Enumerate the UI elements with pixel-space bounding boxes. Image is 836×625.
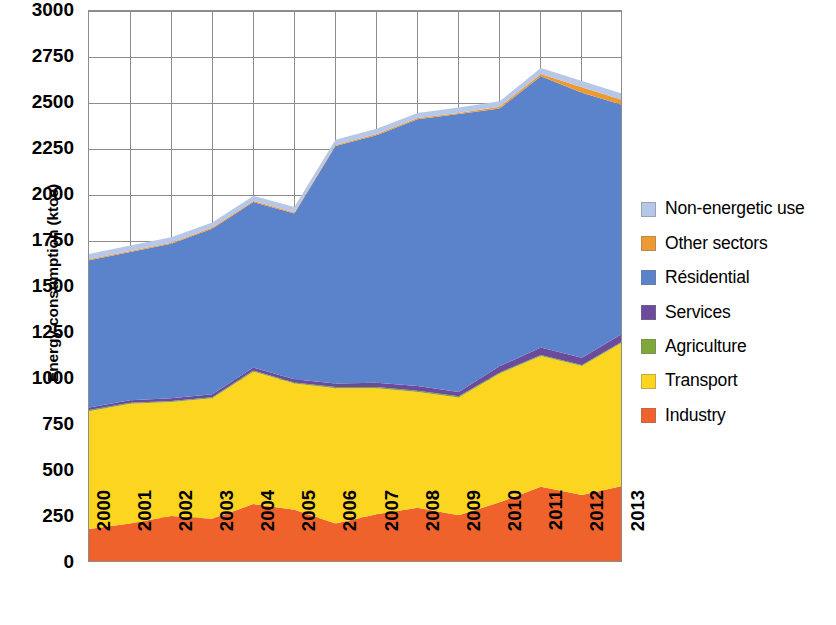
y-tick-label: 0 xyxy=(63,552,74,571)
plot-area xyxy=(88,10,622,562)
legend-label: Transport xyxy=(665,372,737,390)
y-tick-label: 1250 xyxy=(32,322,74,341)
y-tick-label: 1750 xyxy=(32,230,74,249)
y-tick-label: 750 xyxy=(42,414,74,433)
legend-swatch-icon xyxy=(641,202,656,217)
y-tick-label: 2250 xyxy=(32,138,74,157)
legend-label: Agriculture xyxy=(665,338,746,356)
y-tick-label: 250 xyxy=(42,506,74,525)
legend-label: Services xyxy=(665,304,731,322)
legend-item[interactable]: Non-energetic use xyxy=(641,192,836,226)
legend-item[interactable]: Transport xyxy=(641,364,836,398)
legend-item[interactable]: Résidential xyxy=(641,261,836,295)
legend-label: Résidential xyxy=(665,269,749,287)
x-tick-label: 2013 xyxy=(629,490,648,570)
y-tick-label: 1000 xyxy=(32,368,74,387)
y-tick-label: 500 xyxy=(42,460,74,479)
legend-label: Other sectors xyxy=(665,235,767,253)
chart-legend: Non-energetic useOther sectorsRésidentia… xyxy=(641,192,836,433)
legend-item[interactable]: Services xyxy=(641,295,836,329)
area-series-group xyxy=(89,68,622,562)
legend-label: Non-energetic use xyxy=(665,200,805,218)
y-tick-label: 2750 xyxy=(32,46,74,65)
legend-item[interactable]: Other sectors xyxy=(641,226,836,260)
stacked-area-plot xyxy=(89,11,622,562)
y-tick-label: 3000 xyxy=(32,0,74,19)
legend-label: Industry xyxy=(665,407,726,425)
legend-item[interactable]: Industry xyxy=(641,398,836,432)
y-axis-tick-labels: 0250500750100012501500175020002250250027… xyxy=(0,0,82,625)
y-tick-label: 1500 xyxy=(32,276,74,295)
legend-swatch-icon xyxy=(641,339,656,354)
legend-item[interactable]: Agriculture xyxy=(641,330,836,364)
legend-swatch-icon xyxy=(641,236,656,251)
chart-figure: Energy consumption (ktoe) 02505007501000… xyxy=(0,0,836,625)
legend-swatch-icon xyxy=(641,305,656,320)
legend-swatch-icon xyxy=(641,270,656,285)
legend-swatch-icon xyxy=(641,408,656,423)
y-tick-label: 2000 xyxy=(32,184,74,203)
legend-swatch-icon xyxy=(641,374,656,389)
y-tick-label: 2500 xyxy=(32,92,74,111)
